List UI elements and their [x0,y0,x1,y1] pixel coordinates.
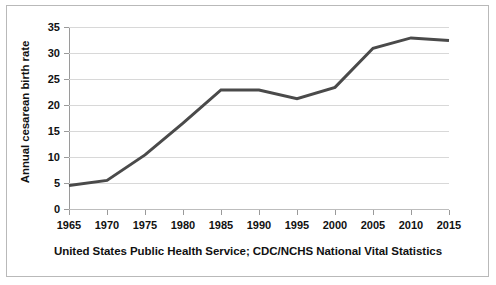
figure-caption: United States Public Health Service; CDC… [0,245,496,257]
cesarean-rate-line [69,38,449,186]
series-layer [0,0,496,285]
chart-figure: Annual cesarean birth rate 35 30 25 20 1… [0,0,496,285]
